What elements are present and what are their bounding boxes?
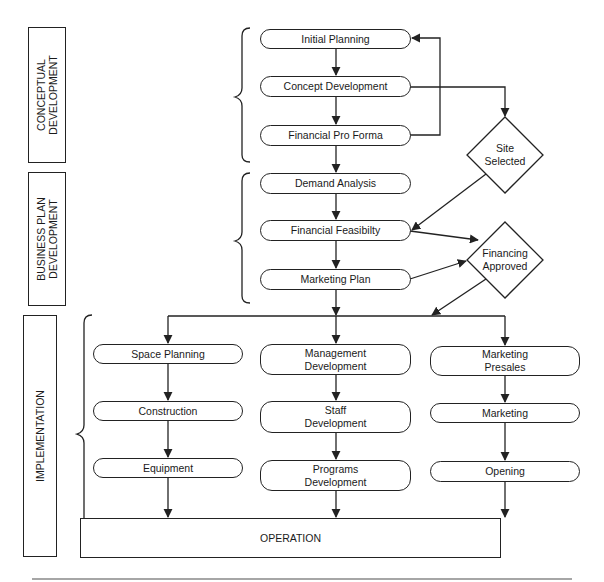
- step-financial-feasibility: Financial Feasibilty: [260, 220, 411, 241]
- step-financial-pro-forma: Financial Pro Forma: [260, 125, 411, 146]
- section-label: BUSINESS PLAN DEVELOPMENT: [35, 197, 59, 280]
- decision-site-selected: Site Selected: [485, 142, 526, 168]
- step-staff-development: Staff Development: [260, 401, 411, 433]
- section-conceptual-development: CONCEPTUAL DEVELOPMENT: [28, 27, 66, 163]
- step-demand-analysis: Demand Analysis: [260, 173, 411, 194]
- final-operation: OPERATION: [80, 518, 501, 558]
- step-programs-development: Programs Development: [260, 460, 411, 491]
- brace-conceptual: [235, 28, 250, 162]
- step-marketing-presales: Marketing Presales: [430, 346, 580, 376]
- section-label: CONCEPTUAL DEVELOPMENT: [35, 55, 59, 134]
- section-label: IMPLEMENTATION: [34, 390, 46, 482]
- step-management-development: Management Development: [260, 344, 411, 375]
- step-marketing: Marketing: [430, 403, 580, 423]
- brace-business: [235, 173, 250, 303]
- step-space-planning: Space Planning: [93, 344, 243, 364]
- section-implementation: IMPLEMENTATION: [23, 315, 57, 557]
- step-marketing-plan: Marketing Plan: [260, 269, 411, 290]
- step-opening: Opening: [430, 461, 580, 482]
- step-construction: Construction: [93, 401, 243, 421]
- step-equipment: Equipment: [93, 458, 243, 478]
- section-business-plan-development: BUSINESS PLAN DEVELOPMENT: [28, 172, 66, 306]
- step-concept-development: Concept Development: [260, 76, 411, 97]
- decision-financing-approved: Financing Approved: [482, 247, 528, 273]
- step-initial-planning: Initial Planning: [260, 29, 411, 49]
